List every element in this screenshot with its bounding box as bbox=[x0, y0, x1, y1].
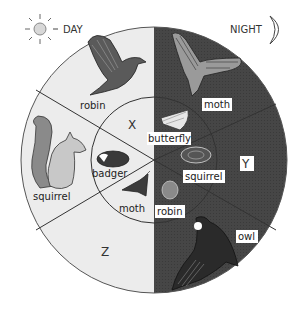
zone-z: Z bbox=[101, 245, 109, 259]
sun-icon bbox=[25, 14, 51, 44]
label-squirrel-day: squirrel bbox=[33, 191, 70, 202]
zone-y: Y bbox=[241, 157, 250, 171]
label-robin-day: robin bbox=[80, 100, 105, 111]
label-squirrel-night: squirrel bbox=[185, 171, 222, 182]
badger-icon bbox=[97, 151, 129, 167]
label-robin-night: robin bbox=[157, 206, 182, 217]
curled-squirrel-icon bbox=[181, 147, 211, 163]
label-butterfly: butterfly bbox=[148, 133, 191, 144]
day-half bbox=[0, 0, 154, 317]
moon-icon bbox=[270, 16, 279, 44]
label-moth-day: moth bbox=[119, 203, 145, 214]
day-night-diagram: DAY NIGHT robin squirrel X badger moth Z bbox=[0, 0, 304, 317]
label-moth-night: moth bbox=[204, 99, 230, 110]
sleeping-robin-icon bbox=[162, 181, 178, 199]
zone-x: X bbox=[128, 118, 136, 132]
night-label: NIGHT bbox=[230, 24, 263, 35]
label-badger: badger bbox=[92, 168, 128, 179]
day-label: DAY bbox=[63, 24, 84, 35]
label-owl: owl bbox=[238, 231, 255, 242]
